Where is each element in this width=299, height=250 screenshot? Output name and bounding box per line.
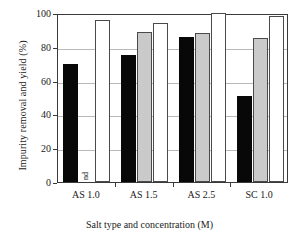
axis-tick-layer: 020406080100AS 1.0AS 1.5AS 2.5SC 1.0 bbox=[0, 0, 299, 250]
x-tick-label: AS 1.0 bbox=[57, 189, 115, 200]
y-tick-label: 20 bbox=[21, 144, 51, 154]
y-tick-mark bbox=[53, 82, 57, 83]
x-tick-label: AS 1.5 bbox=[115, 189, 173, 200]
y-tick-label: 0 bbox=[21, 178, 51, 188]
y-tick-label: 60 bbox=[21, 77, 51, 87]
x-tick-mark bbox=[230, 183, 231, 187]
y-tick-mark bbox=[53, 183, 57, 184]
bar-chart-figure: Impurity removal and yield (%) nd 020406… bbox=[0, 0, 299, 250]
y-tick-mark bbox=[53, 14, 57, 15]
x-tick-label: AS 2.5 bbox=[173, 189, 231, 200]
y-tick-label: 80 bbox=[21, 43, 51, 53]
y-tick-label: 40 bbox=[21, 110, 51, 120]
y-tick-label: 100 bbox=[21, 9, 51, 19]
y-tick-mark bbox=[53, 149, 57, 150]
y-tick-mark bbox=[53, 48, 57, 49]
x-axis-title: Salt type and concentration (M) bbox=[0, 219, 299, 230]
x-tick-mark bbox=[115, 183, 116, 187]
y-tick-mark bbox=[53, 115, 57, 116]
x-tick-mark bbox=[173, 183, 174, 187]
x-tick-label: SC 1.0 bbox=[230, 189, 288, 200]
